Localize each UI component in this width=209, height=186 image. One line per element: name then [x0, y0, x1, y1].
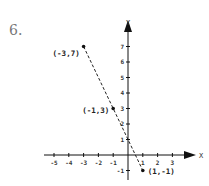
data-point [141, 169, 145, 173]
x-tick-label: 3 [171, 159, 175, 166]
data-points: (-3,7)(-1,3)(1,-1) [53, 45, 175, 176]
x-tick-label: -5 [50, 159, 58, 166]
x-tick-label: -2 [95, 159, 103, 166]
data-point [82, 45, 86, 49]
y-tick-label: 3 [120, 105, 124, 112]
x-tick-label: -4 [65, 159, 73, 166]
x-axis-arrow-icon [184, 151, 196, 159]
point-label: (-1,3) [82, 106, 109, 115]
y-tick-label: 7 [120, 43, 124, 50]
x-axis-label: X [199, 152, 204, 160]
x-tick-label: 2 [156, 159, 160, 166]
y-tick-label: 4 [120, 89, 124, 96]
y-tick-label: 5 [120, 74, 124, 81]
x-tick-label: -3 [80, 159, 88, 166]
x-tick-label: -1 [110, 159, 118, 166]
y-tick-label: 6 [120, 58, 124, 65]
point-label: (1,-1) [148, 167, 175, 176]
x-tick-label: 1 [141, 159, 145, 166]
coordinate-plot: X Y -5-4-3-2-1123-11234567 (-3,7)(-1,3)(… [0, 0, 209, 186]
point-label: (-3,7) [53, 49, 80, 58]
data-point [111, 107, 115, 111]
y-tick-label: -1 [117, 167, 125, 174]
y-axis-label: Y [126, 19, 131, 27]
axes: X Y [44, 19, 204, 180]
y-tick-label: 1 [120, 136, 124, 143]
y-tick-label: 2 [120, 120, 124, 127]
